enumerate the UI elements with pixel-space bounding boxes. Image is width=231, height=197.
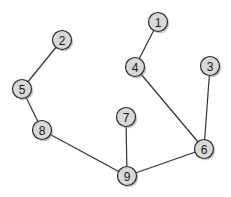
node-9: 9 — [118, 167, 139, 188]
node-label: 8 — [39, 124, 46, 138]
node-label: 7 — [123, 111, 130, 125]
edge-4-6 — [135, 67, 204, 149]
node-label: 2 — [59, 34, 66, 48]
graph-diagram: 123456789 — [0, 0, 231, 197]
node-7: 7 — [117, 108, 138, 129]
edges-layer — [22, 22, 210, 176]
node-label: 3 — [207, 60, 214, 74]
node-label: 6 — [201, 143, 208, 157]
node-6: 6 — [195, 140, 216, 161]
node-3: 3 — [201, 57, 222, 78]
node-label: 5 — [19, 83, 26, 97]
node-8: 8 — [33, 121, 54, 142]
node-label: 9 — [124, 170, 131, 184]
nodes-layer: 123456789 — [13, 13, 222, 188]
edge-8-9 — [42, 130, 127, 176]
node-4: 4 — [126, 58, 147, 79]
node-label: 1 — [155, 16, 162, 30]
node-5: 5 — [13, 80, 34, 101]
edge-3-6 — [204, 66, 210, 149]
node-1: 1 — [149, 13, 170, 34]
node-label: 4 — [132, 61, 139, 75]
edge-9-6 — [127, 149, 204, 176]
